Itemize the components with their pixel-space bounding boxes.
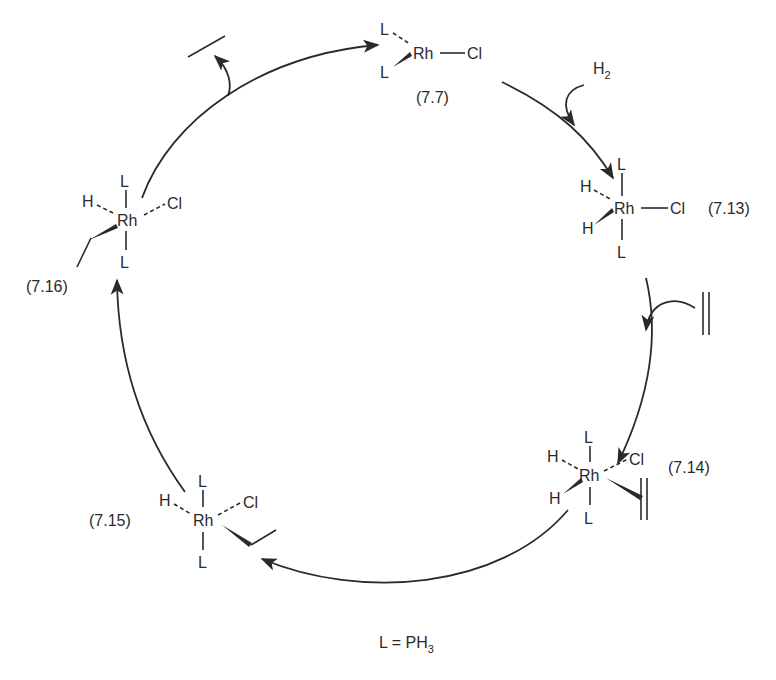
atom-Cl: Cl bbox=[629, 451, 644, 468]
arc-7.14-to-7.15 bbox=[262, 510, 568, 583]
atom-L: L bbox=[380, 21, 389, 38]
reagent-h2: H2 bbox=[593, 60, 611, 81]
dashed-bond bbox=[144, 204, 165, 215]
compound-7-16: L H Rh Cl L (7.16) bbox=[26, 173, 182, 295]
compound-label: (7.7) bbox=[416, 89, 449, 106]
compound-label: (7.13) bbox=[708, 200, 750, 217]
product-ethane bbox=[188, 36, 225, 57]
atom-H: H bbox=[580, 178, 592, 195]
atom-Rh: Rh bbox=[193, 512, 213, 529]
dashed-bond bbox=[174, 504, 191, 514]
atom-L: L bbox=[584, 429, 593, 446]
wedge-bond bbox=[393, 52, 412, 67]
atom-H: H bbox=[159, 492, 171, 509]
wedge-bond-ethyl bbox=[222, 525, 252, 547]
atom-H: H bbox=[549, 490, 561, 507]
compound-label: (7.14) bbox=[668, 459, 710, 476]
arc-7.15-to-7.16 bbox=[117, 280, 185, 492]
dashed-bond bbox=[393, 33, 410, 44]
legend-text: L = PH3 bbox=[379, 634, 434, 655]
compound-7-7: L L Rh Cl (7.7) bbox=[380, 21, 482, 106]
atom-Cl: Cl bbox=[467, 45, 482, 62]
reagent-ethylene bbox=[703, 292, 709, 335]
wedge-bond-ethyl bbox=[89, 224, 118, 240]
compound-label: (7.16) bbox=[26, 278, 68, 295]
wedge-bond-ethylene bbox=[606, 478, 643, 500]
h2-entry-arrow bbox=[566, 85, 584, 125]
h2-label: H2 bbox=[593, 60, 611, 81]
atom-L: L bbox=[198, 473, 207, 490]
dashed-bond bbox=[97, 205, 115, 214]
atom-H: H bbox=[547, 448, 559, 465]
atom-L: L bbox=[120, 254, 129, 271]
dashed-bond bbox=[604, 459, 628, 471]
atom-L: L bbox=[120, 173, 129, 190]
compound-label: (7.15) bbox=[89, 512, 131, 529]
ethane-bond bbox=[188, 36, 225, 57]
arc-7.7-to-7.13 bbox=[502, 82, 613, 178]
catalytic-cycle-diagram: H2 L L Rh Cl (7.7) L H H Rh Cl L (7.13) … bbox=[0, 0, 776, 680]
atom-Rh: Rh bbox=[614, 200, 634, 217]
dashed-bond bbox=[562, 460, 580, 470]
dashed-bond bbox=[218, 503, 240, 515]
dashed-bond bbox=[594, 190, 612, 200]
arc-7.16-to-7.7 bbox=[142, 45, 378, 198]
ethyl-bond bbox=[251, 530, 276, 545]
atom-L: L bbox=[617, 156, 626, 173]
wedge-bond bbox=[563, 478, 583, 494]
atom-L: L bbox=[380, 64, 389, 81]
ethyl-bond bbox=[77, 238, 91, 267]
atom-Cl: Cl bbox=[243, 494, 258, 511]
atom-L: L bbox=[198, 554, 207, 571]
ligand-legend: L = PH3 bbox=[379, 634, 434, 655]
atom-L: L bbox=[584, 510, 593, 527]
atom-H: H bbox=[582, 220, 594, 237]
atom-Cl: Cl bbox=[167, 195, 182, 212]
compound-7-13: L H H Rh Cl L (7.13) bbox=[580, 156, 750, 261]
cycle-arcs bbox=[117, 45, 652, 583]
reagent-arrows bbox=[215, 56, 695, 330]
atom-Cl: Cl bbox=[670, 200, 685, 217]
atom-Rh: Rh bbox=[117, 212, 137, 229]
atom-L: L bbox=[617, 244, 626, 261]
arc-7.13-to-7.14 bbox=[618, 278, 652, 463]
compound-7-14: L H Rh Cl H L (7.14) bbox=[547, 429, 710, 527]
atom-Rh: Rh bbox=[413, 45, 433, 62]
ethane-exit-arrow bbox=[215, 56, 230, 96]
atom-H: H bbox=[82, 193, 94, 210]
ethylene-entry-arrow bbox=[646, 301, 695, 330]
wedge-bond bbox=[594, 208, 614, 225]
